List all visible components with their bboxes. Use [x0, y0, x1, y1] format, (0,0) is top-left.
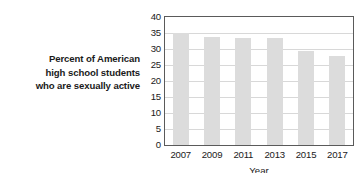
- x-axis-tick-2017: 2017: [327, 149, 348, 160]
- bar-2007: [173, 33, 189, 145]
- bar-2013: [267, 38, 283, 145]
- plot-frame: [164, 16, 354, 146]
- bar-2011: [235, 38, 251, 145]
- y-axis-tick-35: 35: [141, 28, 161, 38]
- bar-2015: [298, 51, 314, 145]
- x-axis-tick-2009: 2009: [202, 149, 223, 160]
- y-axis-tick-20: 20: [141, 76, 161, 86]
- x-axis-tick-2007: 2007: [170, 149, 191, 160]
- bar-chart-figure: Percent of American high school students…: [0, 0, 363, 173]
- x-axis-tick-2011: 2011: [233, 149, 253, 160]
- y-axis-tick-30: 30: [141, 44, 161, 54]
- x-axis-tick-2015: 2015: [296, 149, 317, 160]
- y-axis-tick-0: 0: [141, 140, 161, 150]
- x-axis-tick-labels: 200720092011201320152017: [164, 149, 354, 163]
- x-axis-title: Year: [164, 165, 354, 173]
- y-axis-tick-40: 40: [141, 12, 161, 22]
- bar-2009: [204, 37, 220, 145]
- y-axis-label: Percent of American high school students…: [8, 52, 140, 93]
- x-axis-tick-2013: 2013: [264, 149, 285, 160]
- y-axis-tick-25: 25: [141, 60, 161, 70]
- y-axis-tick-labels: 0510152025303540: [141, 10, 161, 150]
- y-axis-label-line-2: high school students: [8, 66, 140, 80]
- y-axis-tick-15: 15: [141, 92, 161, 102]
- bar-2017: [329, 56, 345, 145]
- y-axis-tick-10: 10: [141, 108, 161, 118]
- y-axis-tick-5: 5: [141, 124, 161, 134]
- plot-area-wrapper: 0510152025303540 20072009201120132015201…: [141, 10, 356, 173]
- y-axis-label-line-1: Percent of American: [8, 52, 140, 66]
- bars-layer: [165, 17, 353, 145]
- y-axis-label-line-3: who are sexually active: [8, 79, 140, 93]
